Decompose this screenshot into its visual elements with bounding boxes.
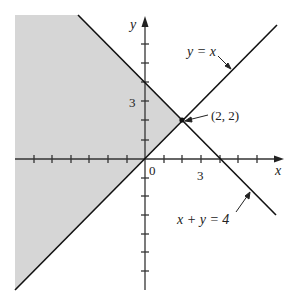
line-label-x-plus-y-equals-4: x + y = 4: [176, 212, 229, 227]
y-tick-label-3: 3: [129, 95, 136, 110]
point-label: (2, 2): [211, 108, 239, 123]
y-axis-label: y: [128, 17, 137, 32]
x-axis-label: x: [274, 163, 282, 178]
line-label-y-equals-x: y = x: [185, 44, 217, 59]
x-tick-label-3: 3: [197, 168, 204, 183]
shaded-region: [15, 15, 182, 290]
inequality-graph: y x 0 3 3 (2, 2) y = x x + y = 4: [0, 0, 304, 294]
x-axis-arrow-icon: [274, 156, 284, 163]
origin-label: 0: [149, 163, 156, 178]
intersection-point: [179, 117, 184, 122]
y-axis-arrow-icon: [142, 16, 149, 27]
